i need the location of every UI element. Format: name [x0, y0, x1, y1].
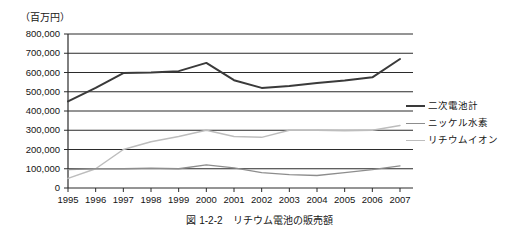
y-axis-tick-label: 100,000: [2, 163, 60, 174]
series-line: [68, 125, 400, 178]
y-axis-tick-label: 500,000: [2, 86, 60, 97]
x-axis-tick-label: 1999: [168, 194, 189, 205]
x-axis-tick-label: 2002: [251, 194, 272, 205]
legend-label: ニッケル水素: [428, 118, 488, 128]
x-axis-tick-label: 2000: [196, 194, 217, 205]
y-axis-tick-label: 300,000: [2, 124, 60, 135]
y-axis-tick-label: 700,000: [2, 47, 60, 58]
legend-swatch-1: [406, 105, 425, 107]
y-axis-tick-label: 800,000: [2, 28, 60, 39]
x-axis-tick-label: 1997: [113, 194, 134, 205]
y-axis-tick-label: 400,000: [2, 105, 60, 116]
x-axis-tick-label: 1996: [85, 194, 106, 205]
legend-item: リチウムイオン: [406, 132, 498, 148]
figure-caption: 図 1-2-2 リチウム電池の販売額: [0, 212, 519, 227]
y-axis-tick-label: 0: [2, 182, 60, 193]
legend-label: リチウムイオン: [428, 135, 498, 145]
legend-item: 二次電池計: [406, 98, 498, 114]
x-axis-tick-label: 2001: [223, 194, 244, 205]
y-axis-tick-label: 600,000: [2, 67, 60, 78]
chart-legend: 二次電池計ニッケル水素リチウムイオン: [406, 98, 498, 149]
x-axis-tick-label: 2007: [389, 194, 410, 205]
legend-item: ニッケル水素: [406, 115, 498, 131]
x-axis-tick-label: 2004: [306, 194, 327, 205]
legend-label: 二次電池計: [428, 101, 478, 111]
x-axis-tick-label: 1995: [57, 194, 78, 205]
legend-swatch-3: [406, 140, 425, 141]
series-line: [68, 165, 400, 176]
x-axis-tick-label: 1998: [140, 194, 161, 205]
x-axis-tick-label: 2005: [334, 194, 355, 205]
x-axis-tick-label: 2006: [362, 194, 383, 205]
chart-figure: （百万円） 800,000700,000600,000500,000400,00…: [0, 0, 519, 234]
legend-swatch-2: [406, 123, 425, 124]
y-axis-tick-label: 200,000: [2, 144, 60, 155]
x-axis-tick-label: 2003: [279, 194, 300, 205]
series-line: [68, 59, 400, 101]
